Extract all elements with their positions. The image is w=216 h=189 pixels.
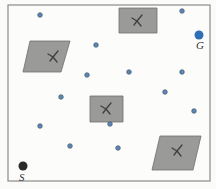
sample-point (94, 43, 99, 48)
start-point (19, 162, 28, 171)
obstacle-bottom-right (152, 136, 201, 170)
start-label: S (19, 171, 25, 183)
sample-point (180, 9, 185, 14)
sample-point (38, 13, 43, 18)
sample-point (68, 144, 73, 149)
sample-point (192, 109, 197, 114)
workspace-diagram: GS (0, 0, 216, 189)
sample-point (163, 90, 168, 95)
sample-point (108, 122, 113, 127)
sample-point (116, 146, 121, 151)
sample-point (127, 70, 132, 75)
sample-point (59, 95, 64, 100)
sample-point (85, 73, 90, 78)
sample-point (180, 70, 185, 75)
sample-point (38, 124, 43, 129)
goal-label: G (196, 39, 204, 51)
diagram-canvas: GS (0, 0, 216, 189)
